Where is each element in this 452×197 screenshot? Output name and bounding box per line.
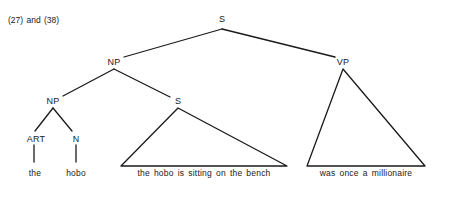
triangle-vp: [307, 69, 425, 166]
leaf-hobo: hobo: [66, 168, 86, 178]
leaf-the: the: [29, 168, 41, 178]
leaf-s-phrase: the hobo is sitting on the bench: [137, 168, 270, 178]
figure-caption: (27) and (38): [8, 15, 59, 25]
node-s-lower: S: [175, 96, 181, 106]
branch-s-vp: [222, 29, 335, 57]
branch-np-n: [53, 108, 72, 131]
node-np-upper: NP: [108, 57, 121, 67]
branch-np-np: [63, 69, 114, 96]
node-art: ART: [27, 134, 45, 144]
leaf-vp-phrase: was once a millionaire: [320, 168, 413, 178]
branch-s-np: [124, 29, 222, 57]
node-vp: VP: [337, 57, 349, 67]
branch-np-art: [35, 108, 53, 131]
triangle-s-lower: [121, 108, 287, 166]
branch-np-s: [114, 69, 170, 97]
node-n: N: [73, 134, 80, 144]
syntax-tree-diagram: (27) and (38) S NP VP NP S ART N the hob…: [0, 0, 452, 197]
node-np-lower: NP: [47, 96, 60, 106]
node-s-root: S: [219, 14, 225, 24]
